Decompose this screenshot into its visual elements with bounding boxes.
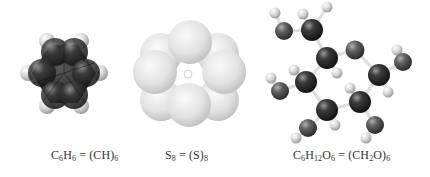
sulfur-model bbox=[133, 20, 246, 127]
benzene-formula-caption: C6H6 = (CH)6 bbox=[51, 148, 118, 163]
glucose-formula-caption: C6H12O6 = (CH2O)6 bbox=[293, 148, 390, 163]
carbon-atom bbox=[60, 81, 88, 109]
ring-center-hole bbox=[184, 70, 192, 78]
glucose-model bbox=[266, 2, 413, 144]
sulfur-atom bbox=[202, 50, 246, 94]
sulfur-formula-caption: S8 = (S)8 bbox=[165, 148, 208, 163]
molecular-models-figure: C6H6 = (CH)6 S8 = (S)8 C6H12O6 = (CH2O)6 bbox=[0, 0, 430, 177]
sulfur-atom bbox=[167, 83, 211, 127]
sulfur-atom bbox=[168, 20, 212, 64]
sulfur-atom bbox=[133, 50, 177, 94]
benzene-model bbox=[20, 33, 108, 114]
oxygen-atoms bbox=[271, 22, 412, 137]
